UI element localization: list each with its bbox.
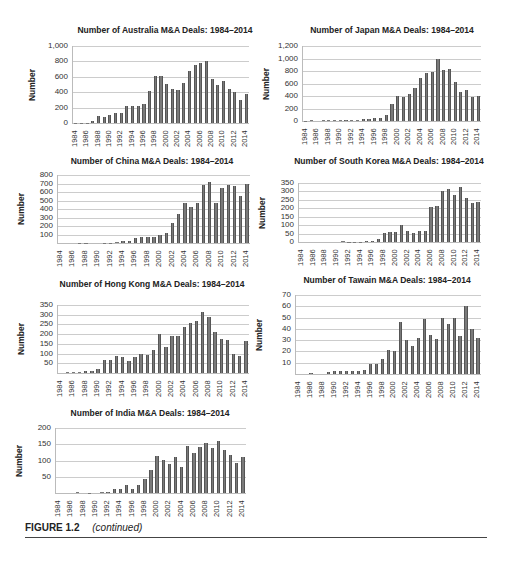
bar-1994: [357, 371, 360, 374]
y-tick-label: 600: [36, 72, 68, 81]
y-tick-label: 800: [266, 66, 298, 75]
x-tick-label: 2014: [240, 130, 249, 147]
x-tick-label: 1994: [117, 250, 126, 267]
x-tick-label: 2014: [241, 250, 250, 267]
bar-1996: [133, 357, 136, 374]
bar-2012: [233, 186, 236, 243]
gridline: [58, 334, 249, 335]
bar-2012: [465, 198, 468, 242]
x-tick-label: 2014: [240, 380, 249, 397]
x-tick-label: 2010: [217, 130, 226, 147]
chart-title: Number of India M&A Deals: 1984–2014: [40, 408, 260, 418]
bar-2014: [244, 341, 247, 373]
bar-2000: [155, 456, 158, 493]
bar-1999: [149, 470, 152, 493]
bar-1994: [362, 119, 365, 121]
bar-2008: [441, 191, 444, 242]
x-tick-label: 2008: [200, 500, 209, 517]
x-tick-label: 1984: [296, 249, 305, 266]
x-tick-label: 1998: [378, 249, 387, 266]
bar-2004: [188, 71, 191, 123]
y-tick-label: 200: [266, 104, 298, 113]
y-tick-label: 300: [21, 310, 53, 319]
bar-2001: [171, 89, 174, 123]
bar-2011: [227, 185, 230, 243]
bar-1991: [103, 360, 106, 373]
bar-1991: [341, 241, 344, 242]
x-tick-label: 2010: [216, 250, 225, 267]
x-tick-label: 2014: [237, 500, 246, 517]
bar-1997: [139, 354, 142, 373]
bar-2007: [198, 447, 201, 493]
bar-1989: [327, 372, 330, 374]
x-tick-label: 2008: [203, 380, 212, 397]
gridline: [296, 306, 481, 307]
x-tick-label: 2006: [191, 250, 200, 267]
x-tick-label: 2006: [195, 130, 204, 147]
x-tick-label: 2002: [166, 380, 175, 397]
x-tick-label: 2004: [412, 381, 421, 398]
y-tick-label: 200: [21, 329, 53, 338]
x-tick-label: 1984: [300, 128, 309, 145]
x-tick-label: 1990: [334, 128, 343, 145]
x-tick-label: 2010: [215, 380, 224, 397]
bar-2001: [162, 460, 165, 493]
y-tick-label: 50: [19, 472, 51, 481]
bar-2006: [429, 207, 432, 242]
bar-2007: [436, 59, 439, 122]
y-tick-label: 700: [21, 179, 53, 188]
figure-caption: FIGURE 1.2 (continued): [25, 522, 142, 533]
x-tick-label: 2006: [191, 380, 200, 397]
y-tick-label: 1,000: [36, 41, 68, 50]
x-tick-label: 1988: [317, 381, 326, 398]
bar-2003: [182, 83, 185, 123]
bar-1998: [146, 355, 149, 373]
bar-2002: [170, 336, 173, 373]
bar-2008: [204, 443, 207, 493]
bar-2008: [211, 79, 214, 123]
plot-area: [57, 175, 250, 244]
y-tick-label: 200: [21, 221, 53, 230]
bar-2004: [183, 203, 186, 243]
gridline: [303, 71, 481, 72]
x-tick-label: 1988: [93, 130, 102, 147]
plot-area: [295, 295, 481, 375]
y-tick-label: 1,200: [266, 41, 298, 50]
bar-2011: [228, 89, 231, 123]
plot-area: [72, 46, 249, 124]
bar-1989: [103, 117, 106, 123]
x-tick-label: 2008: [206, 130, 215, 147]
bar-2010: [454, 82, 457, 121]
x-tick-label: 1996: [365, 381, 374, 398]
x-tick-label: 1992: [104, 380, 113, 397]
x-tick-label: 1992: [115, 130, 124, 147]
bar-1993: [125, 106, 128, 123]
bar-1999: [152, 350, 155, 373]
y-tick-label: 40: [259, 324, 291, 333]
bar-1999: [159, 76, 162, 123]
x-tick-label: 1990: [104, 130, 113, 147]
bar-1995: [125, 485, 128, 493]
bar-2014: [476, 202, 479, 242]
y-tick-label: 150: [262, 212, 294, 221]
bar-2004: [417, 338, 420, 374]
bar-2010: [220, 339, 223, 373]
y-tick-label: 50: [21, 358, 53, 367]
bar-1989: [90, 371, 93, 373]
bar-1986: [72, 372, 75, 373]
chart-title: Number of South Korea M&A Deals: 1984–20…: [279, 156, 499, 166]
bar-2003: [176, 336, 179, 373]
bar-1997: [375, 364, 378, 374]
x-tick-label: 1992: [346, 128, 355, 145]
x-tick-label: 1984: [293, 381, 302, 398]
gridline: [56, 428, 246, 429]
x-tick-label: 1996: [127, 500, 136, 517]
x-tick-label: 2004: [179, 250, 188, 267]
bar-1993: [353, 242, 356, 243]
bar-2000: [394, 232, 397, 242]
y-tick-label: 250: [21, 319, 53, 328]
bar-2005: [423, 319, 426, 374]
x-tick-label: 1986: [308, 249, 317, 266]
bar-2008: [207, 317, 210, 373]
bar-2009: [448, 69, 451, 121]
